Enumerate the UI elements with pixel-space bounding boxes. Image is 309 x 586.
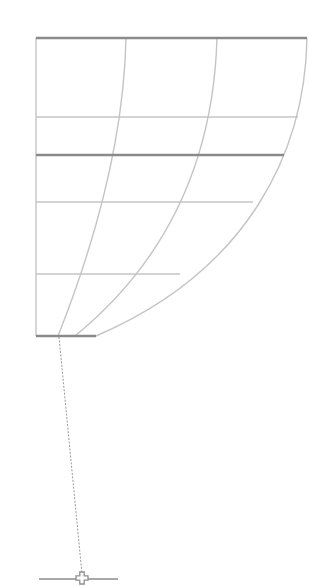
outer-curve [96, 38, 307, 336]
crosshair-shape [76, 572, 88, 584]
inner-curve [58, 38, 126, 336]
section-curves [58, 38, 307, 336]
thick-horizontal-lines [36, 38, 307, 336]
middle-curve [75, 38, 217, 336]
hull-grid-diagram [0, 0, 309, 586]
thin-horizontal-lines [36, 117, 298, 274]
plumb-line [59, 337, 82, 574]
crosshair-icon [76, 572, 88, 584]
